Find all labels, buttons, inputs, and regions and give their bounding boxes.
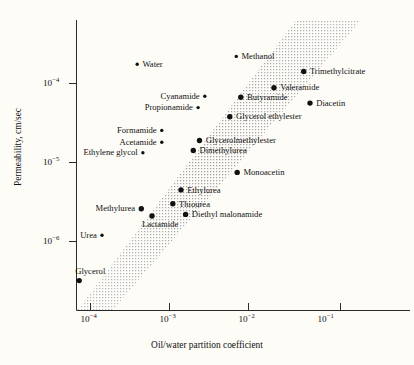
data-point-dot [197, 138, 202, 143]
data-point-dot [203, 95, 206, 98]
data-point-label: Thiourea [179, 200, 210, 209]
data-point-dot [271, 85, 276, 90]
data-point-label: Water [142, 60, 162, 69]
data-point-label: Diacetin [316, 99, 345, 108]
data-point-label: Formamide [117, 126, 157, 135]
data-point-label: Trimethylcitrate [310, 67, 366, 76]
data-point-dot [235, 170, 240, 175]
data-point-label: Butyramide [247, 93, 288, 102]
data-point-label: Propionamide [145, 103, 193, 112]
data-point-dot [100, 234, 103, 237]
y-tick-label: 10−6 [43, 237, 59, 246]
data-point-label: Ethylene glycol [83, 148, 137, 157]
data-point-label: Valeramide [280, 83, 319, 92]
data-point-label: Cyanamide [161, 92, 200, 101]
data-point-dot [136, 63, 139, 66]
y-tick-label: 10−4 [43, 79, 59, 88]
y-tick-label: 10−5 [43, 158, 59, 167]
data-point-label: Methylurea [96, 204, 136, 213]
x-tick-label: 10−1 [318, 315, 334, 324]
data-point-dot [301, 69, 306, 74]
x-tick-label: 10−3 [160, 315, 176, 324]
data-point-label: Dimethylurea [199, 146, 246, 155]
plot-canvas [0, 0, 414, 365]
data-point-dot [149, 213, 154, 218]
data-point-label: Lactamide [142, 220, 178, 229]
data-point-dot [178, 187, 183, 192]
x-tick-label: 10−4 [81, 315, 97, 324]
x-axis-title: Oil/water partition coefficient [0, 340, 414, 350]
data-point-dot [235, 55, 238, 58]
data-point-dot [191, 148, 196, 153]
data-point-dot [196, 106, 199, 109]
data-point-dot [307, 100, 312, 105]
data-point-dot [160, 129, 163, 132]
data-point-dot [141, 151, 144, 154]
data-point-dot [139, 206, 144, 211]
data-point-dot [227, 114, 232, 119]
y-axis-title: Permeability, cm/sec [13, 67, 23, 227]
data-point-label: Ethylurea [187, 186, 220, 195]
data-point-dot [183, 212, 188, 217]
permeability-scatter-figure: WaterMethanolTrimethylcitrateValeramideC… [0, 0, 414, 365]
data-point-label: Glycerolmethylester [206, 136, 276, 145]
data-point-dot [238, 95, 243, 100]
data-point-label: Urea [80, 231, 97, 240]
data-point-dot [170, 201, 175, 206]
data-point-label: Glycerol ethylester [236, 112, 302, 121]
data-point-label: Diethyl malonamide [192, 210, 262, 219]
x-tick-label: 10−2 [239, 315, 255, 324]
data-point-dot [77, 278, 82, 283]
data-point-label: Monoacetin [243, 168, 284, 177]
data-point-label: Glycerol [75, 267, 105, 276]
data-point-label: Acetamide [119, 138, 156, 147]
data-point-label: Methanol [241, 52, 274, 61]
data-point-dot [160, 141, 163, 144]
correlation-band [77, 20, 361, 311]
